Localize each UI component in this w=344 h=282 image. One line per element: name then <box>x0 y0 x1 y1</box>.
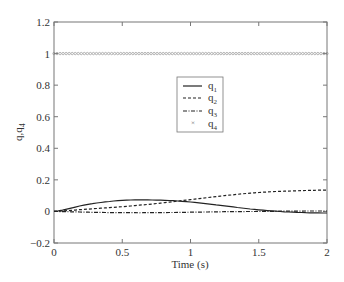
y-tick-label: 0.4 <box>36 142 50 154</box>
y-axis-label: q,q4 <box>12 123 27 141</box>
y-tick-label: 1 <box>45 48 51 60</box>
x-axis-label: Time (s) <box>171 258 209 271</box>
y-tick-label: 0.8 <box>36 79 50 91</box>
x-tick-label: 0.5 <box>115 246 129 258</box>
chart: −0.200.20.40.60.811.2 00.511.52 Time (s)… <box>0 0 344 282</box>
x-tick-label: 1 <box>188 246 194 258</box>
legend-q4-marker-icon: × <box>191 119 195 127</box>
y-tick-label: 0.2 <box>36 174 50 186</box>
y-tick-label: 1.2 <box>36 16 50 28</box>
y-tick-label: 0 <box>45 205 51 217</box>
x-tick-label: 1.5 <box>252 246 266 258</box>
series-q2 <box>54 190 327 211</box>
x-axis-ticks: 00.511.52 <box>51 22 330 258</box>
y-axis-ticks: −0.200.20.40.60.811.2 <box>30 16 327 249</box>
x-tick-label: 0 <box>51 246 57 258</box>
series-lines <box>53 52 328 213</box>
y-tick-label: −0.2 <box>30 237 50 249</box>
x-tick-label: 2 <box>324 246 330 258</box>
legend: × q1 q2 q3 q4 <box>177 77 223 132</box>
y-tick-label: 0.6 <box>36 111 50 123</box>
plot-frame <box>54 22 327 243</box>
